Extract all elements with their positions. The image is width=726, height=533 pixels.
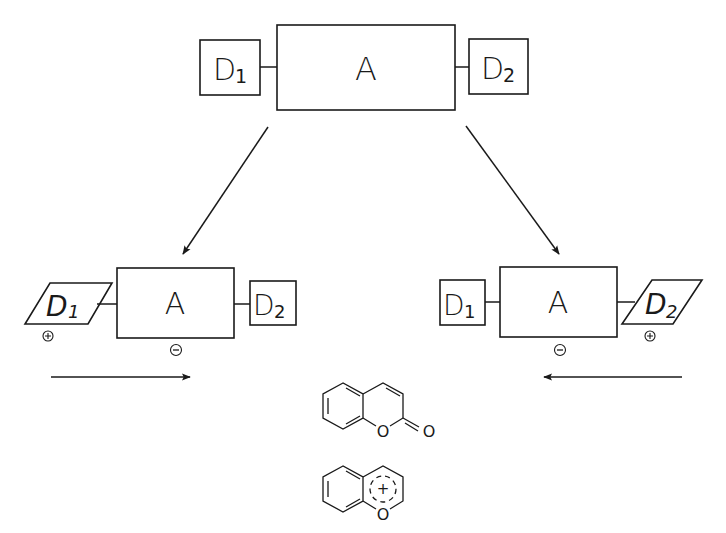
charge-transfer-diagram: D 1 A D 2 D 1 A D 2: [0, 0, 726, 533]
top-acceptor-box: A: [277, 25, 455, 110]
bl-donor-ground-box: D 2: [250, 281, 296, 325]
arrow-down-right-icon: [466, 126, 559, 254]
benzopyrylium-ring-oxygen: O: [377, 505, 390, 524]
br-minus-charge-icon: [555, 345, 566, 356]
br-donor-ground-sub: 1: [464, 301, 475, 322]
arrow-down-left-icon: [183, 127, 268, 254]
br-donor-excited-label: D: [645, 288, 667, 321]
bl-donor-ground-label: D: [253, 289, 275, 322]
bl-donor-excited-sub: 1: [68, 301, 79, 322]
bl-acceptor-label: A: [165, 286, 186, 321]
bl-donor-ground-sub: 2: [274, 301, 285, 322]
bl-acceptor-box: A: [117, 268, 234, 338]
bottom-right-assembly: D 1 A D 2: [440, 267, 702, 377]
top-donor-right-label: D: [481, 51, 504, 86]
br-plus-charge-icon: [645, 331, 655, 341]
coumarin-ring-oxygen: O: [377, 422, 390, 441]
br-acceptor-label: A: [548, 285, 569, 320]
bl-donor-excited-label: D: [46, 290, 68, 323]
top-assembly: D 1 A D 2: [200, 25, 528, 110]
top-donor-left-label: D: [213, 52, 236, 87]
br-donor-ground-box: D 1: [440, 280, 485, 325]
benzopyrylium-charge: +: [377, 480, 390, 498]
top-donor-left-box: D 1: [200, 40, 260, 95]
top-donor-right-sub: 2: [503, 64, 515, 86]
benzopyrylium-structure: + O: [323, 466, 403, 524]
top-acceptor-label: A: [355, 50, 377, 88]
coumarin-carbonyl-oxygen: O: [423, 422, 436, 441]
br-acceptor-box: A: [500, 267, 617, 337]
br-donor-ground-label: D: [443, 289, 465, 322]
top-donor-left-sub: 1: [235, 65, 247, 87]
top-donor-right-box: D 2: [469, 39, 528, 94]
bottom-left-assembly: D 1 A D 2: [25, 268, 296, 377]
coumarin-structure: O O: [323, 383, 435, 441]
br-donor-excited-sub: 2: [666, 301, 677, 322]
bl-plus-charge-icon: [43, 331, 53, 341]
bl-minus-charge-icon: [171, 345, 182, 356]
